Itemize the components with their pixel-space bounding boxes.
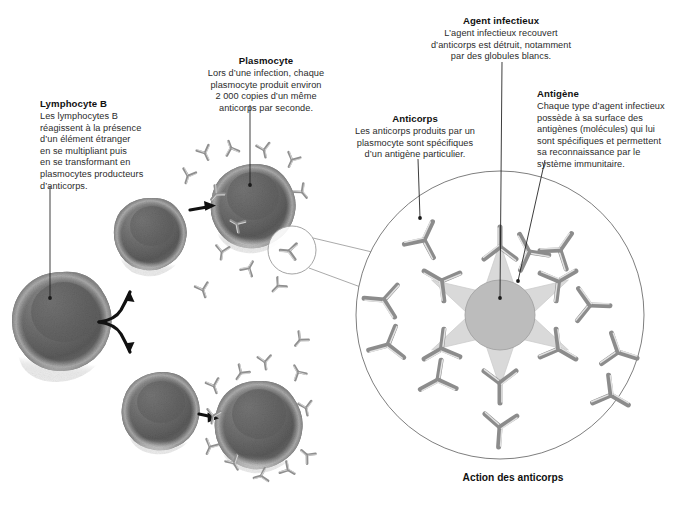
antibody-icon — [290, 331, 309, 350]
callout-title: Lymphocyte B — [40, 97, 192, 110]
callout-body: L’agent infectieux recouvert d’anticorps… — [412, 28, 590, 63]
antibody-icon — [288, 362, 307, 381]
antibody-icon — [196, 144, 214, 162]
callout-antigene: Antigène Chaque type d’agent infectieux … — [537, 87, 669, 171]
callout-title: Plasmocyte — [186, 54, 346, 67]
antibody-icon — [283, 151, 301, 169]
callout-title: Anticorps — [336, 112, 494, 125]
callout-plasmocyte: Plasmocyte Lors d’une infection, chaque … — [186, 54, 346, 114]
cell-group — [12, 164, 303, 473]
antibody-icon — [268, 277, 288, 297]
cell-plasmocyte-bottom — [215, 381, 303, 473]
antibody-icon — [231, 364, 250, 383]
cell-lymphocyte-b-bottom — [122, 372, 200, 454]
antibody-icon — [206, 377, 224, 395]
callout-lymphocyte-b: Lymphocyte B Les lymphocytes B réagissen… — [40, 97, 192, 192]
antibody-icon — [297, 445, 316, 464]
antibody-icon — [293, 182, 312, 201]
callout-title: Agent infectieux — [412, 14, 590, 27]
antibody-icon — [215, 245, 230, 261]
callout-body: Les lymphocytes B réagissent à la présen… — [40, 111, 192, 192]
figure-caption: Action des anticorps — [398, 472, 628, 483]
cell-lymphocyte-b-small — [114, 198, 187, 276]
antibody-icon — [195, 282, 212, 299]
antibody-icon — [201, 438, 219, 456]
callout-title: Antigène — [537, 87, 669, 100]
diagram-canvas: Lymphocyte B Les lymphocytes B réagissen… — [0, 0, 674, 509]
callout-agent-infectieux: Agent infectieux L’agent infectieux reco… — [412, 14, 590, 63]
callout-body: Lors d’une infection, chaque plasmocyte … — [186, 68, 346, 114]
antibody-magnifier — [268, 226, 372, 289]
antibody-icon — [240, 258, 259, 277]
antibody-icon — [258, 354, 273, 370]
callout-anticorps: Anticorps Les anticorps produits par un … — [336, 112, 494, 161]
antibody-icon — [256, 142, 272, 158]
antigen-complex — [356, 171, 644, 459]
antibody-icon — [222, 139, 240, 157]
callout-body: Chaque type d’agent infectieux possède à… — [537, 101, 669, 171]
callout-body: Les anticorps produits par un plasmocyte… — [336, 126, 494, 161]
cell-lymphocyte-b-large — [12, 272, 112, 382]
